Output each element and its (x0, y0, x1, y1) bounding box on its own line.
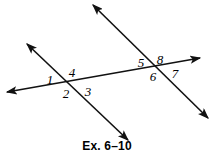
angle-label-7: 7 (172, 67, 179, 80)
angle-label-3: 3 (85, 85, 92, 98)
right-diagonal-line (93, 5, 208, 118)
angle-label-6: 6 (150, 70, 157, 83)
angle-label-1: 1 (47, 73, 54, 86)
left-diagonal-line (27, 44, 128, 140)
angle-label-2: 2 (63, 87, 70, 100)
figure-caption: Ex. 6–10 (0, 140, 214, 152)
angle-label-4: 4 (69, 66, 76, 79)
geometry-figure: 1 2 3 4 5 6 7 8 Ex. 6–10 (0, 0, 214, 156)
geometry-diagram-canvas (0, 0, 214, 156)
angle-label-5: 5 (138, 56, 145, 69)
angle-label-8: 8 (157, 53, 164, 66)
